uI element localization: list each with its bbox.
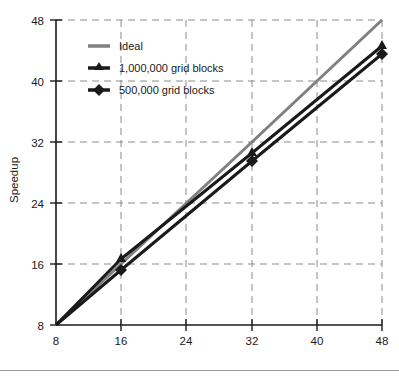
- legend-label-500000-grid-blocks: 500,000 grid blocks: [119, 84, 215, 96]
- speedup-line-chart: 48 40 32 24 16 8 8 16 24 32 40 48 Speedu…: [0, 0, 399, 352]
- y-tick-label-8: 8: [38, 320, 44, 332]
- x-tick-label-24: 24: [180, 335, 193, 347]
- legend-diamond-marker: [93, 84, 105, 96]
- y-tick-label-48: 48: [31, 15, 44, 27]
- data-point-marker-triangle: [377, 40, 387, 49]
- caption-divider-rule: [0, 370, 399, 371]
- legend-triangle-marker: [94, 62, 104, 70]
- legend: Ideal 1,000,000 grid blocks 500,000 grid…: [88, 40, 224, 96]
- figure-container: 48 40 32 24 16 8 8 16 24 32 40 48 Speedu…: [0, 0, 399, 379]
- legend-label-1000000-grid-blocks: 1,000,000 grid blocks: [119, 62, 224, 74]
- x-tick-label-48: 48: [376, 335, 389, 347]
- legend-label-ideal: Ideal: [119, 40, 143, 52]
- y-tick-label-40: 40: [31, 76, 44, 88]
- x-tick-label-8: 8: [53, 335, 59, 347]
- y-tick-label-24: 24: [31, 198, 44, 210]
- series-line-500000-grid-blocks: [56, 54, 382, 325]
- y-tick-label-16: 16: [31, 259, 44, 271]
- x-tick-label-16: 16: [115, 335, 128, 347]
- x-tick-label-32: 32: [246, 335, 259, 347]
- x-tick-label-40: 40: [311, 335, 324, 347]
- y-axis-title: Speedup: [8, 157, 20, 203]
- y-tick-labels: 48 40 32 24 16 8: [31, 15, 44, 332]
- x-tick-labels: 8 16 24 32 40 48: [53, 335, 389, 347]
- y-tick-label-32: 32: [31, 137, 44, 149]
